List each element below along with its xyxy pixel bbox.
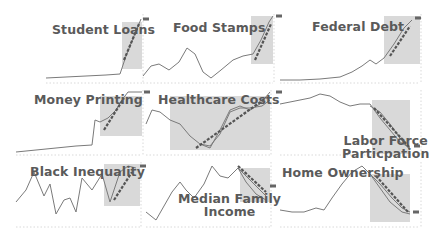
chart-title: Labor ForceParticpation (342, 134, 429, 160)
chart-panel-median-family-income: Median FamilyIncome (146, 162, 270, 226)
value-marker-icon (270, 185, 276, 188)
chart-title: Median FamilyIncome (178, 192, 281, 218)
value-marker-icon (413, 211, 419, 214)
chart-title: Federal Debt (312, 20, 404, 33)
chart-panel-student-loans: Student Loans (46, 14, 142, 82)
chart-title: Money Printing (34, 93, 143, 106)
chart-title: Home Ownership (282, 166, 404, 179)
chart-panel-healthcare-costs: Healthcare Costs (146, 90, 270, 154)
chart-title: Healthcare Costs (158, 93, 280, 106)
chart-panel-labor-force-particpation: Labor ForceParticpation (280, 90, 420, 154)
chart-title: Black Inequality (30, 165, 145, 178)
chart-title: Food Stamps (173, 21, 265, 34)
chart-panel-home-ownership: Home Ownership (280, 162, 420, 226)
projection-shade (370, 174, 410, 222)
chart-panel-food-stamps: Food Stamps (143, 14, 273, 82)
value-marker-icon (415, 17, 421, 20)
chart-panel-federal-debt: Federal Debt (280, 14, 420, 82)
chart-title: Student Loans (52, 23, 155, 36)
chart-panel-money-printing: Money Printing (16, 90, 142, 154)
chart-panel-black-inequality: Black Inequality (16, 162, 140, 226)
